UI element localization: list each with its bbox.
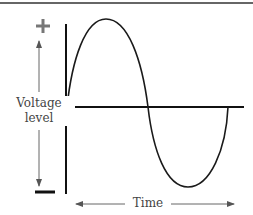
sine-curve bbox=[67, 19, 228, 187]
time-label: Time bbox=[126, 196, 170, 211]
voltage-label-line2: level bbox=[3, 111, 75, 126]
voltage-label-line1: Voltage bbox=[3, 96, 75, 111]
plus-icon bbox=[36, 19, 50, 33]
voltage-level-label: Voltage level bbox=[3, 96, 75, 126]
